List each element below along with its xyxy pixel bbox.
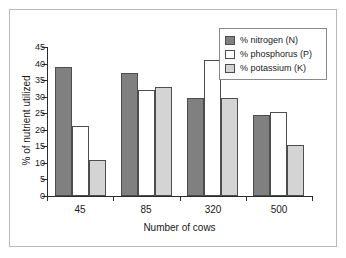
legend-item: % nitrogen (N) [225, 33, 321, 47]
legend-swatch-icon [225, 64, 235, 73]
bar [221, 98, 238, 196]
bar [187, 98, 204, 196]
bar [138, 90, 155, 196]
bar [72, 126, 89, 196]
chart-legend: % nitrogen (N)% phosphorus (P)% potassiu… [219, 28, 327, 80]
x-tick [246, 196, 247, 201]
y-axis-line [47, 47, 48, 197]
legend-label: % potassium (K) [240, 63, 306, 73]
x-tick-label: 500 [253, 204, 305, 215]
bar [55, 67, 72, 196]
bar [270, 112, 287, 196]
y-axis-title: % of nutrient utilized [21, 51, 32, 191]
legend-label: % nitrogen (N) [240, 35, 298, 45]
legend-item: % phosphorus (P) [225, 47, 321, 61]
legend-item: % potassium (K) [225, 61, 321, 75]
chart-figure: 051015202530354045 4585320500 % of nutri… [0, 0, 346, 258]
x-tick [113, 196, 114, 201]
x-tick-label: 320 [187, 204, 239, 215]
y-tick-label: 0 [21, 192, 45, 201]
x-tick-label: 45 [54, 204, 106, 215]
bar [121, 73, 138, 196]
x-tick [180, 196, 181, 201]
bar [253, 115, 270, 196]
x-tick [312, 196, 313, 201]
x-axis-title: Number of cows [47, 222, 312, 233]
x-tick [47, 196, 48, 201]
plot-area: 051015202530354045 4585320500 % of nutri… [0, 0, 346, 258]
x-tick-label: 85 [120, 204, 172, 215]
bar [155, 87, 172, 196]
bar [204, 60, 221, 196]
bar [89, 160, 106, 196]
legend-swatch-icon [225, 50, 235, 59]
legend-swatch-icon [225, 36, 235, 45]
bar [287, 145, 304, 196]
legend-label: % phosphorus (P) [240, 49, 312, 59]
